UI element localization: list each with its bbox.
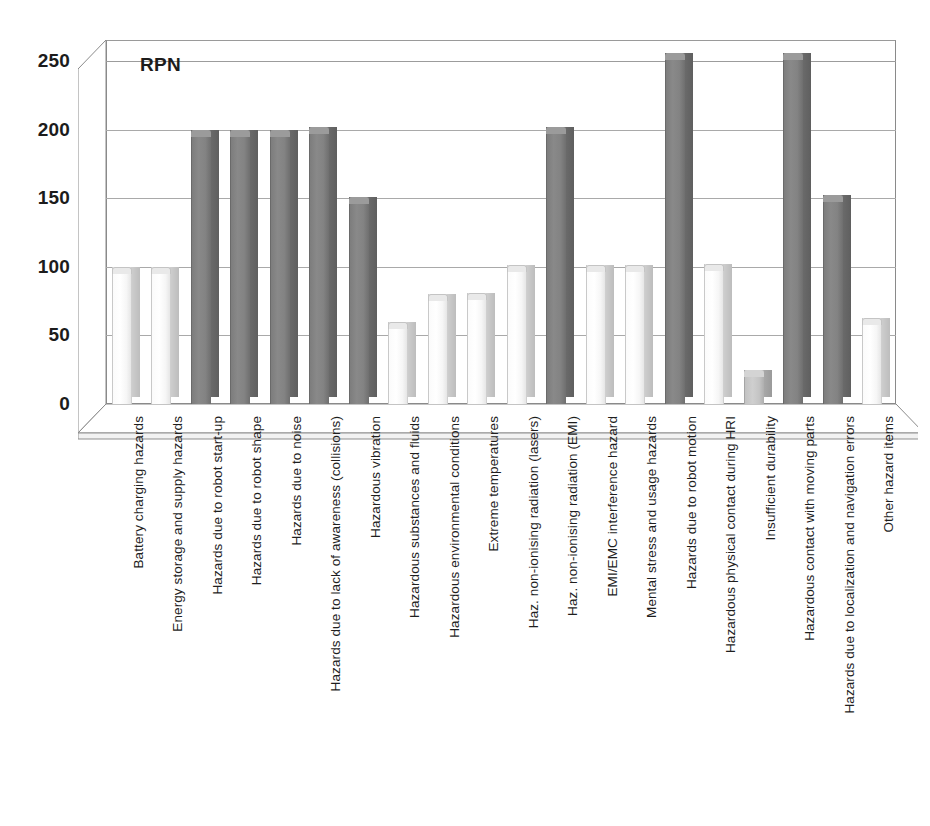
category-label-5: Hazards due to noise <box>289 416 304 546</box>
plot-area: RPN <box>78 40 918 415</box>
bar-13 <box>586 265 606 404</box>
category-labels: Battery charging hazardsEnergy storage a… <box>78 416 918 816</box>
bar-10 <box>467 293 487 404</box>
bar-top-face <box>428 294 448 301</box>
rpn-bar-chart: 050100150200250 RPN Battery charging haz… <box>0 0 930 826</box>
bar-top-face <box>862 318 882 325</box>
category-label-19: Hazards due to localization and navigati… <box>842 416 857 714</box>
bar-11 <box>507 265 527 404</box>
bar-front-face <box>151 267 171 404</box>
bar-side-face <box>250 130 258 397</box>
bar-front-face <box>467 293 487 404</box>
category-label-11: Haz. non-ionising radiation (lasers) <box>526 416 541 628</box>
bar-side-face <box>527 265 535 397</box>
y-axis-tick-0: 0 <box>59 393 70 415</box>
bar-front-face <box>665 53 685 404</box>
category-label-1: Battery charging hazards <box>131 416 146 568</box>
bar-2 <box>151 267 171 404</box>
bar-14 <box>625 265 645 404</box>
bar-20 <box>862 318 882 404</box>
bar-side-face <box>171 267 179 397</box>
category-label-17: Insufficient durability <box>763 416 778 540</box>
bar-top-face <box>112 267 132 274</box>
y-axis-tick-100: 100 <box>38 256 70 278</box>
bar-top-face <box>625 265 645 272</box>
bar-front-face <box>507 265 527 404</box>
bar-front-face <box>862 318 882 404</box>
bar-front-face <box>783 53 803 404</box>
bar-side-face <box>329 127 337 397</box>
bar-front-face <box>388 322 408 404</box>
bar-side-face <box>211 130 219 397</box>
bar-side-face <box>566 127 574 397</box>
bar-8 <box>388 322 408 404</box>
bar-top-face <box>270 130 290 137</box>
bar-top-face <box>823 195 843 202</box>
bar-side-face <box>645 265 653 397</box>
bar-side-face <box>408 322 416 397</box>
y-axis: 050100150200250 <box>0 0 78 826</box>
bar-top-face <box>467 293 487 300</box>
bar-front-face <box>349 197 369 404</box>
bar-top-face <box>191 130 211 137</box>
bar-side-face <box>803 53 811 397</box>
bar-side-face <box>487 293 495 397</box>
y-axis-tick-200: 200 <box>38 119 70 141</box>
bar-front-face <box>625 265 645 404</box>
bar-side-face <box>606 265 614 397</box>
bar-top-face <box>507 265 527 272</box>
bar-top-face <box>151 267 171 274</box>
category-label-12: Haz. non-ionising radiation (EMI) <box>565 416 580 616</box>
bar-top-face <box>704 264 724 271</box>
bar-side-face <box>448 294 456 397</box>
bar-front-face <box>230 130 250 404</box>
y-axis-tick-250: 250 <box>38 50 70 72</box>
y-axis-tick-50: 50 <box>48 324 70 346</box>
bar-top-face <box>546 127 566 134</box>
bar-side-face <box>843 195 851 397</box>
bar-side-face <box>290 130 298 397</box>
bar-front-face <box>546 127 566 404</box>
bar-front-face <box>586 265 606 404</box>
category-label-4: Hazards due to robot shape <box>249 416 264 585</box>
bar-18 <box>783 53 803 404</box>
bar-9 <box>428 294 448 404</box>
bar-1 <box>112 267 132 404</box>
bar-top-face <box>309 127 329 134</box>
bar-3 <box>191 130 211 404</box>
category-label-15: Hazards due to robot motion <box>684 416 699 589</box>
bar-front-face <box>112 267 132 404</box>
bar-side-face <box>764 370 772 397</box>
bar-front-face <box>191 130 211 404</box>
category-label-14: Mental stress and usage hazards <box>644 416 659 618</box>
category-label-7: Hazardous vibration <box>368 416 383 538</box>
category-label-13: EMI/EMC interference hazard <box>605 416 620 597</box>
bar-front-face <box>428 294 448 404</box>
bar-top-face <box>230 130 250 137</box>
bar-top-face <box>665 53 685 60</box>
category-label-9: Hazardous environmental conditions <box>447 416 462 638</box>
category-label-20: Other hazard items <box>881 416 896 533</box>
bar-side-face <box>132 267 140 397</box>
bar-19 <box>823 195 843 404</box>
category-label-2: Energy storage and supply hazards <box>170 416 185 632</box>
bar-top-face <box>744 370 764 377</box>
bar-12 <box>546 127 566 404</box>
bar-top-face <box>349 197 369 204</box>
bar-front-face <box>823 195 843 404</box>
bar-15 <box>665 53 685 404</box>
bar-side-face <box>369 197 377 397</box>
bar-top-face <box>586 265 606 272</box>
bar-top-face <box>388 322 408 329</box>
bar-17 <box>744 370 764 404</box>
category-label-16: Hazardous physical contact during HRI <box>723 416 738 653</box>
bar-side-face <box>685 53 693 397</box>
bar-4 <box>230 130 250 404</box>
bar-front-face <box>309 127 329 404</box>
y-axis-tick-150: 150 <box>38 187 70 209</box>
bar-front-face <box>704 264 724 404</box>
category-label-3: Hazards due to robot start-up <box>210 416 225 595</box>
bar-6 <box>309 127 329 404</box>
category-label-6: Hazards due to lack of awareness (collis… <box>328 416 343 691</box>
bar-side-face <box>724 264 732 397</box>
